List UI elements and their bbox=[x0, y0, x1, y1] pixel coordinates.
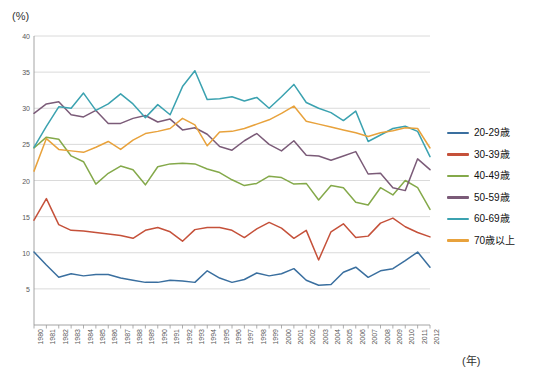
legend-item[interactable]: 30-39歳 bbox=[447, 150, 515, 160]
x-tick-label: 1989 bbox=[148, 329, 155, 345]
x-tick-label: 1988 bbox=[136, 329, 143, 345]
x-tick-label: 2004 bbox=[334, 329, 341, 345]
x-tick-label: 1986 bbox=[111, 329, 118, 345]
x-tick-label: 2012 bbox=[433, 329, 440, 345]
x-tick-label: 1985 bbox=[99, 329, 106, 345]
x-tick-label: 1992 bbox=[186, 329, 193, 345]
legend-item-label: 60-69歳 bbox=[474, 214, 510, 224]
y-tick-label: 20 bbox=[22, 177, 34, 184]
legend-item[interactable]: 40-49歳 bbox=[447, 171, 515, 181]
y-tick-label: 25 bbox=[22, 141, 34, 148]
legend-color-swatch bbox=[447, 132, 469, 135]
y-tick-label: 15 bbox=[22, 213, 34, 220]
legend-item-label: 40-49歳 bbox=[474, 171, 510, 181]
x-tick-label: 1991 bbox=[173, 329, 180, 345]
legend-item[interactable]: 20-29歳 bbox=[447, 128, 515, 138]
y-tick-label: 35 bbox=[22, 69, 34, 76]
x-tick-label: 1982 bbox=[62, 329, 69, 345]
legend-item[interactable]: 60-69歳 bbox=[447, 214, 515, 224]
y-axis-unit-label: (%) bbox=[12, 10, 29, 22]
legend-color-swatch bbox=[447, 196, 469, 199]
y-tick-label: 40 bbox=[22, 33, 34, 40]
legend-item[interactable]: 70歳以上 bbox=[447, 236, 515, 246]
x-tick-label: 1996 bbox=[235, 329, 242, 345]
legend-color-swatch bbox=[447, 153, 469, 156]
clipped-chart-title bbox=[120, 0, 440, 7]
x-tick-label: 1983 bbox=[74, 329, 81, 345]
plot-svg bbox=[34, 36, 430, 325]
series-line bbox=[34, 106, 430, 171]
x-tick-label: 2011 bbox=[421, 329, 428, 344]
x-tick-label: 2008 bbox=[384, 329, 391, 345]
legend-item-label: 20-29歳 bbox=[474, 128, 510, 138]
x-tick-label: 2006 bbox=[359, 329, 366, 345]
x-tick-label: 1995 bbox=[223, 329, 230, 345]
x-tick-label: 2002 bbox=[309, 329, 316, 345]
x-tick-label: 2009 bbox=[396, 329, 403, 345]
gridlines bbox=[34, 36, 430, 289]
chart-legend: 20-29歳30-39歳40-49歳50-59歳60-69歳70歳以上 bbox=[447, 128, 515, 246]
x-tick-label: 1987 bbox=[124, 329, 131, 345]
x-tick-label: 1994 bbox=[210, 329, 217, 345]
legend-color-swatch bbox=[447, 175, 469, 178]
x-tick-label: 1998 bbox=[260, 329, 267, 345]
x-tick-label: 1990 bbox=[161, 329, 168, 345]
series-line bbox=[34, 102, 430, 191]
legend-item[interactable]: 50-59歳 bbox=[447, 193, 515, 203]
legend-color-swatch bbox=[447, 239, 469, 242]
x-tick-label: 1984 bbox=[87, 329, 94, 345]
x-tick-label: 2001 bbox=[297, 329, 304, 345]
y-tick-label: 10 bbox=[22, 249, 34, 256]
legend-item-label: 50-59歳 bbox=[474, 193, 510, 203]
x-tick-label: 1980 bbox=[37, 329, 44, 345]
x-tick-label: 1993 bbox=[198, 329, 205, 345]
x-axis-unit-label: (年) bbox=[462, 352, 480, 368]
x-tick-label: 1981 bbox=[49, 329, 56, 345]
x-tick-label: 2000 bbox=[285, 329, 292, 345]
plot-area: 510152025303540 198019811982198319841985… bbox=[34, 36, 430, 325]
series-line bbox=[34, 71, 430, 157]
x-tick-label: 2003 bbox=[322, 329, 329, 345]
x-tick-label: 1997 bbox=[247, 329, 254, 345]
x-tick-label: 2007 bbox=[371, 329, 378, 345]
series-line bbox=[34, 199, 430, 260]
x-tick-label: 2010 bbox=[408, 329, 415, 345]
y-tick-label: 5 bbox=[26, 285, 34, 292]
series-line bbox=[34, 252, 430, 285]
legend-item-label: 70歳以上 bbox=[474, 236, 515, 246]
line-chart: (%) (年) 510152025303540 1980198119821983… bbox=[0, 0, 540, 387]
legend-color-swatch bbox=[447, 218, 469, 221]
x-tick-label: 1999 bbox=[272, 329, 279, 345]
legend-item-label: 30-39歳 bbox=[474, 150, 510, 160]
x-tick-label: 2005 bbox=[346, 329, 353, 345]
y-tick-label: 30 bbox=[22, 105, 34, 112]
